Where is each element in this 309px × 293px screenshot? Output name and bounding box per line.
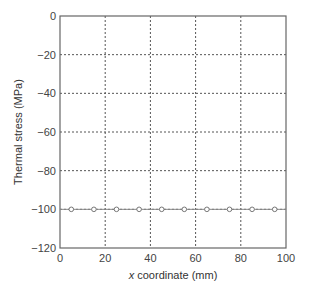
y-tick-label: 0 [50,10,56,22]
x-tick-label: 20 [99,252,111,264]
data-point-marker [272,207,277,212]
x-tick-label: 80 [235,252,247,264]
y-axis-label: Thermal stress (MPa) [12,79,24,185]
data-point-marker [92,207,97,212]
y-tick-label: −100 [31,203,56,215]
x-tick-label: 100 [277,252,295,264]
x-tick-label: 0 [57,252,63,264]
x-tick-label: 40 [144,252,156,264]
y-tick-label: −20 [37,49,56,61]
thermal-stress-chart: 0−20−40−60−80−100−120 020406080100 x coo… [0,0,309,293]
data-point-marker [227,207,232,212]
x-axis-ticks: 020406080100 [57,252,295,264]
y-axis-ticks: 0−20−40−60−80−100−120 [31,10,56,254]
data-point-marker [159,207,164,212]
data-point-marker [182,207,187,212]
grid-lines [60,16,286,248]
data-point-marker [137,207,142,212]
x-axis-label: x coordinate (mm) [128,269,218,281]
data-point-marker [114,207,119,212]
y-tick-label: −120 [31,242,56,254]
data-point-marker [250,207,255,212]
data-series [60,207,286,212]
data-point-marker [205,207,210,212]
x-tick-label: 60 [189,252,201,264]
y-tick-label: −60 [37,126,56,138]
y-tick-label: −80 [37,165,56,177]
data-point-marker [69,207,74,212]
y-tick-label: −40 [37,87,56,99]
